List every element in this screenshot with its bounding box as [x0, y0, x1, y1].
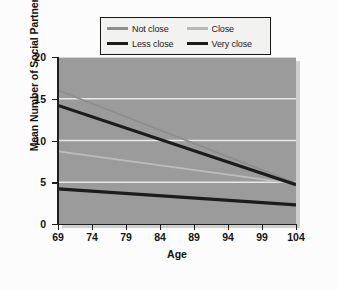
legend-swatch-close-icon [187, 27, 208, 30]
x-tick-mark [126, 225, 127, 230]
y-tick-mark [52, 182, 57, 183]
series-line-not-close [58, 90, 296, 183]
gridlines [58, 57, 296, 182]
y-tick-label: 0 [0, 218, 46, 230]
legend-item-less-close: Less close [107, 39, 187, 49]
legend-label-less-close: Less close [132, 39, 174, 49]
legend-swatch-very-close-icon [187, 42, 208, 45]
series-line-less-close [58, 105, 296, 184]
legend-item-not-close: Not close [107, 24, 187, 34]
x-tick-label: 79 [111, 231, 141, 243]
y-axis-title: Mean Number of Social Partners [28, 0, 40, 152]
plot-wrapper [58, 57, 296, 224]
legend-item-close: Close [187, 24, 267, 34]
x-tick-label: 94 [213, 231, 243, 243]
chart-canvas [58, 57, 296, 224]
legend-label-close: Close [212, 24, 235, 34]
legend-swatch-less-close-icon [107, 42, 128, 45]
legend-label-very-close: Very close [212, 39, 253, 49]
y-tick-mark [52, 141, 57, 142]
x-tick-label: 104 [281, 231, 311, 243]
x-tick-mark [58, 225, 59, 230]
x-tick-label: 74 [77, 231, 107, 243]
y-tick-mark [52, 99, 57, 100]
y-tick-mark [52, 57, 57, 58]
x-tick-mark [92, 225, 93, 230]
x-tick-mark [228, 225, 229, 230]
x-tick-mark [296, 225, 297, 230]
x-axis-title: Age [58, 248, 296, 260]
x-tick-mark [262, 225, 263, 230]
x-tick-label: 99 [247, 231, 277, 243]
series-line-close [58, 151, 296, 184]
x-tick-mark [194, 225, 195, 230]
legend-swatch-not-close-icon [107, 27, 128, 29]
x-tick-label: 89 [179, 231, 209, 243]
chart-figure: Not close Close Less close Very close 05… [0, 0, 338, 290]
y-axis-line [57, 57, 59, 225]
x-tick-mark [160, 225, 161, 230]
x-tick-label: 69 [43, 231, 73, 243]
chart-legend: Not close Close Less close Very close [100, 17, 271, 55]
series-line-very-close [58, 189, 296, 205]
series-lines [58, 90, 296, 204]
plot-area [58, 57, 296, 224]
y-tick-label: 5 [0, 176, 46, 188]
legend-label-not-close: Not close [132, 24, 169, 34]
legend-item-very-close: Very close [187, 39, 267, 49]
y-tick-mark [52, 224, 57, 225]
x-tick-label: 84 [145, 231, 175, 243]
